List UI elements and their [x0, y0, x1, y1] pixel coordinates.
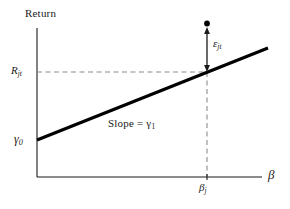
y-tick-label-rjt: Rjt: [11, 65, 22, 78]
x-tick-label-subscript: j: [204, 186, 206, 195]
slope-annotation-subscript: 1: [151, 122, 155, 131]
x-axis-title: β: [268, 168, 274, 181]
figure-canvas: [0, 0, 290, 209]
residual-arrowhead-up: [204, 27, 210, 34]
y-tick-label-base: R: [11, 64, 18, 76]
intercept-label-subscript: 0: [19, 138, 23, 147]
x-tick-label-betaj: βj: [199, 182, 207, 195]
residual-annotation-subscript: jt: [217, 42, 221, 51]
y-tick-label-subscript: jt: [18, 69, 22, 78]
observed-data-point: [204, 21, 210, 27]
residual-annotation: εjt: [213, 38, 222, 51]
slope-annotation-text: Slope = γ: [108, 117, 151, 129]
regression-figure: Return β Rjt γ0 βj Slope = γ1 εjt: [0, 0, 290, 209]
y-axis-title: Return: [25, 8, 56, 19]
intercept-label-gamma0: γ0: [14, 133, 23, 147]
slope-annotation: Slope = γ1: [108, 118, 155, 131]
